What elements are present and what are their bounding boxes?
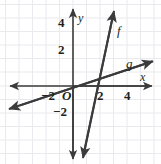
x-tick-4: 4 [124, 89, 131, 102]
x-tick-2: 2 [97, 89, 104, 102]
y-tick-2: 2 [58, 43, 65, 56]
x-tick-neg2: −2 [41, 89, 55, 102]
function-label-g: g [126, 57, 133, 70]
y-tick-neg2: −2 [53, 105, 67, 118]
y-axis-label: y [78, 12, 83, 24]
origin-label: O [62, 89, 71, 102]
function-label-f: f [117, 24, 121, 37]
y-tick-4: 4 [58, 16, 65, 29]
line-f-up-arrow [84, 11, 114, 152]
x-axis-label: x [140, 71, 145, 83]
coordinate-plane-figure: −2 2 4 4 2 −2 O x y f g [0, 0, 161, 164]
